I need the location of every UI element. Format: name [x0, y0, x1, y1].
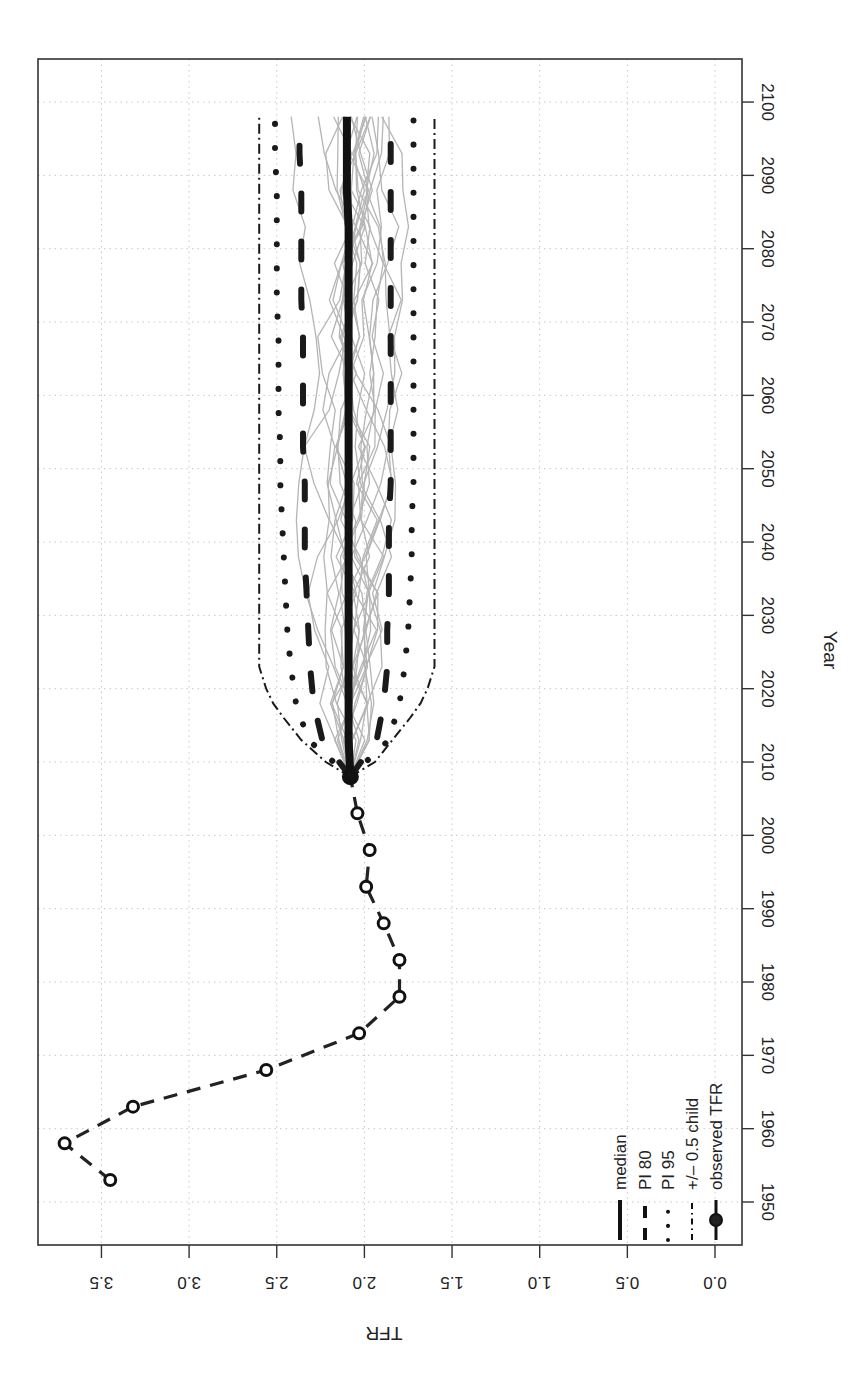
- year-tick-label: 2020: [758, 670, 777, 708]
- legend-label: PI 80: [636, 1150, 655, 1190]
- observed-point: [128, 1101, 139, 1112]
- year-axis: 1950196019701980199020002010202020302040…: [742, 83, 777, 1221]
- year-tick-label: 2050: [758, 450, 777, 488]
- year-tick-label: 2070: [758, 303, 777, 341]
- tfr-projection-chart: 1950196019701980199020002010202020302040…: [0, 0, 848, 1382]
- tfr-tick-label: 1.0: [528, 1273, 552, 1292]
- year-tick-label: 2060: [758, 376, 777, 414]
- tfr-axis: 0.00.51.01.52.02.53.03.5: [90, 1245, 727, 1292]
- observed-point: [364, 845, 375, 856]
- x-axis-title: Year: [820, 631, 841, 670]
- observed-tfr-series: [59, 770, 405, 1186]
- observed-point: [354, 1028, 365, 1039]
- year-tick-label: 2010: [758, 743, 777, 781]
- year-tick-label: 2000: [758, 816, 777, 854]
- median-line: [347, 117, 351, 777]
- tfr-tick-label: 2.0: [353, 1273, 377, 1292]
- year-tick-label: 1970: [758, 1036, 777, 1074]
- plot-frame: [38, 59, 742, 1245]
- observed-point: [352, 808, 363, 819]
- observed-point: [378, 918, 389, 929]
- year-tick-label: 2090: [758, 156, 777, 194]
- legend-label: +/– 0.5 child: [683, 1098, 702, 1190]
- legend-label: observed TFR: [707, 1083, 726, 1190]
- observed-point: [361, 881, 372, 892]
- tfr-tick-label: 2.5: [265, 1273, 289, 1292]
- year-tick-label: 1960: [758, 1110, 777, 1148]
- observed-point: [261, 1065, 272, 1076]
- year-tick-label: 2030: [758, 596, 777, 634]
- y-axis-title: TFR: [366, 1323, 403, 1344]
- observed-point: [394, 991, 405, 1002]
- legend-label: PI 95: [659, 1150, 678, 1190]
- year-tick-label: 1980: [758, 963, 777, 1001]
- grid-lines: [38, 59, 742, 1245]
- observed-point: [394, 955, 405, 966]
- year-tick-label: 1950: [758, 1183, 777, 1221]
- legend: medianPI 80PI 95+/– 0.5 childobserved TF…: [611, 1083, 726, 1240]
- observed-point: [59, 1138, 70, 1149]
- observed-point: [343, 770, 357, 784]
- year-tick-label: 2100: [758, 83, 777, 121]
- tfr-tick-label: 3.5: [90, 1273, 114, 1292]
- tfr-tick-label: 0.0: [703, 1273, 727, 1292]
- tfr-tick-label: 0.5: [616, 1273, 640, 1292]
- year-tick-label: 1990: [758, 890, 777, 928]
- observed-point: [105, 1175, 116, 1186]
- median-line: [347, 117, 351, 777]
- legend-circle-icon: [710, 1214, 722, 1226]
- year-tick-label: 2040: [758, 523, 777, 561]
- year-tick-label: 2080: [758, 230, 777, 268]
- legend-label: median: [611, 1134, 630, 1190]
- observed-line: [65, 777, 400, 1180]
- tfr-tick-label: 3.0: [177, 1273, 201, 1292]
- tfr-tick-label: 1.5: [440, 1273, 464, 1292]
